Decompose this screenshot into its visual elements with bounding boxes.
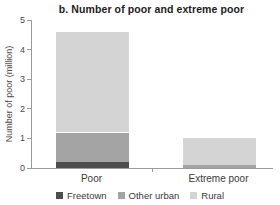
legend-item-freetown: Freetown (56, 190, 107, 201)
x-axis-tick (152, 169, 153, 172)
y-tick-label: 3 (5, 74, 25, 84)
y-axis-tick (27, 168, 32, 169)
legend-label: Rural (201, 190, 224, 201)
legend-swatch-icon (56, 192, 63, 199)
y-axis-tick (27, 49, 32, 50)
bar-segment-freetown (56, 162, 129, 168)
legend-item-other-urban: Other urban (118, 190, 180, 201)
chart-title: b. Number of poor and extreme poor (31, 3, 272, 15)
y-tick-label: 2 (5, 104, 25, 114)
bar-poor (56, 20, 129, 168)
legend-item-rural: Rural (190, 190, 224, 201)
y-axis-tick (27, 108, 32, 109)
chart-panel: b. Number of poor and extreme poor Numbe… (0, 0, 280, 205)
y-axis-tick (27, 20, 32, 21)
plot-area: 012345 (31, 20, 273, 169)
legend-swatch-icon (118, 192, 125, 199)
y-tick-label: 4 (5, 45, 25, 55)
bar-segment-other-urban (183, 165, 256, 168)
y-tick-label: 0 (5, 163, 25, 173)
y-axis-tick (27, 79, 32, 80)
legend-label: Freetown (67, 190, 107, 201)
x-category-label: Extreme poor (174, 173, 264, 184)
bar-segment-other-urban (56, 133, 129, 163)
y-axis-tick (27, 138, 32, 139)
legend-label: Other urban (129, 190, 180, 201)
x-category-label: Poor (47, 173, 137, 184)
bar-extreme-poor (183, 20, 256, 168)
legend-swatch-icon (190, 192, 197, 199)
bar-segment-rural (183, 138, 256, 165)
y-tick-label: 1 (5, 133, 25, 143)
legend: FreetownOther urbanRural (0, 190, 280, 201)
bar-segment-rural (56, 32, 129, 133)
y-tick-label: 5 (5, 15, 25, 25)
